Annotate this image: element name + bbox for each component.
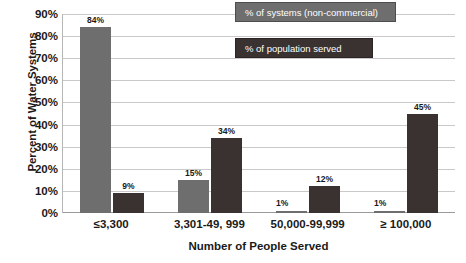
bar-slot: 1%	[374, 14, 405, 213]
bar[interactable]: 84%	[80, 27, 111, 213]
y-axis-tick-80: 80%	[20, 30, 58, 42]
bar[interactable]: 9%	[113, 193, 144, 213]
x-axis-tick-label: ≤3,300	[62, 218, 160, 230]
x-axis-tick-label: ≥ 100,000	[357, 218, 455, 230]
y-axis-tick-90: 90%	[20, 8, 58, 20]
y-axis-tick-60: 60%	[20, 74, 58, 86]
bar-slot: 45%	[407, 14, 438, 213]
y-axis-tick-50: 50%	[20, 96, 58, 108]
bar[interactable]: 34%	[211, 138, 242, 213]
x-axis-tick-label: 50,000-99,999	[259, 218, 357, 230]
bar-chart: Percent of Water Systems 90%80%70%60%50%…	[0, 0, 466, 263]
bar-value-label: 1%	[276, 198, 288, 208]
y-axis-tick-40: 40%	[20, 119, 58, 131]
bar-value-label: 1%	[374, 198, 386, 208]
x-axis-title: Number of People Served	[62, 240, 455, 252]
x-axis-tick-labels: ≤3,3003,301-49, 99950,000-99,999≥ 100,00…	[62, 218, 455, 230]
x-axis-tick-label: 3,301-49, 999	[160, 218, 258, 230]
bar-value-label: 45%	[414, 102, 431, 112]
bar-value-label: 9%	[122, 181, 134, 191]
bar-slot: 15%	[178, 14, 209, 213]
legend-item-population[interactable]: % of population served	[235, 38, 373, 58]
bar[interactable]: 1%	[374, 211, 405, 213]
bar-slot: 9%	[113, 14, 144, 213]
bar-group: 84%9%	[63, 14, 161, 213]
y-axis-tick-30: 30%	[20, 141, 58, 153]
y-axis-tick-labels: 90%80%70%60%50%40%30%20%10%0%	[20, 14, 58, 213]
bar[interactable]: 12%	[309, 186, 340, 213]
bar[interactable]: 1%	[276, 211, 307, 213]
bar-value-label: 12%	[316, 174, 333, 184]
bar[interactable]: 45%	[407, 114, 438, 214]
y-axis-tick-0: 0%	[20, 207, 58, 219]
bar-value-label: 84%	[87, 15, 104, 25]
legend-label-systems: % of systems (non-commercial)	[245, 7, 378, 18]
y-axis-tick-70: 70%	[20, 52, 58, 64]
legend-item-systems[interactable]: % of systems (non-commercial)	[235, 2, 396, 22]
bar-value-label: 34%	[218, 126, 235, 136]
bar-value-label: 15%	[185, 168, 202, 178]
bar[interactable]: 15%	[178, 180, 209, 213]
y-axis-tick-10: 10%	[20, 185, 58, 197]
legend-label-population: % of population served	[245, 43, 342, 54]
y-axis-tick-20: 20%	[20, 163, 58, 175]
bar-slot: 84%	[80, 14, 111, 213]
